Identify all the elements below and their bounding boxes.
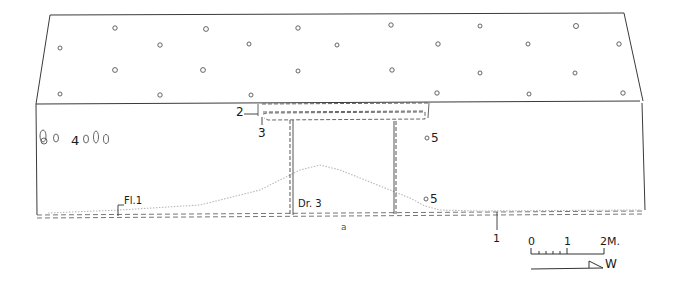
label-floor: Fl.1: [124, 196, 142, 206]
orientation-label: W: [605, 258, 617, 270]
figure-caption: a: [341, 223, 347, 232]
elevation-drawing: [0, 0, 686, 286]
label-5-lower: 5: [430, 193, 438, 205]
door-lintel: [258, 103, 430, 120]
label-3: 3: [258, 127, 266, 139]
scale-tick-2m: 2M.: [600, 236, 620, 247]
roof-holes: [58, 23, 625, 97]
scale-tick-1: 1: [564, 236, 571, 247]
holes-five: [424, 136, 429, 201]
scale-bar: [531, 248, 604, 254]
label-2: 2: [236, 106, 244, 118]
label-5-upper: 5: [431, 132, 439, 144]
foundation-lines: [37, 211, 645, 218]
label-4: 4: [71, 134, 79, 147]
label-1: 1: [493, 233, 500, 244]
roof-panel: [36, 13, 643, 104]
label-door: Dr. 3: [298, 199, 322, 209]
scale-tick-0: 0: [528, 236, 535, 247]
orientation-arrow: [531, 261, 603, 269]
